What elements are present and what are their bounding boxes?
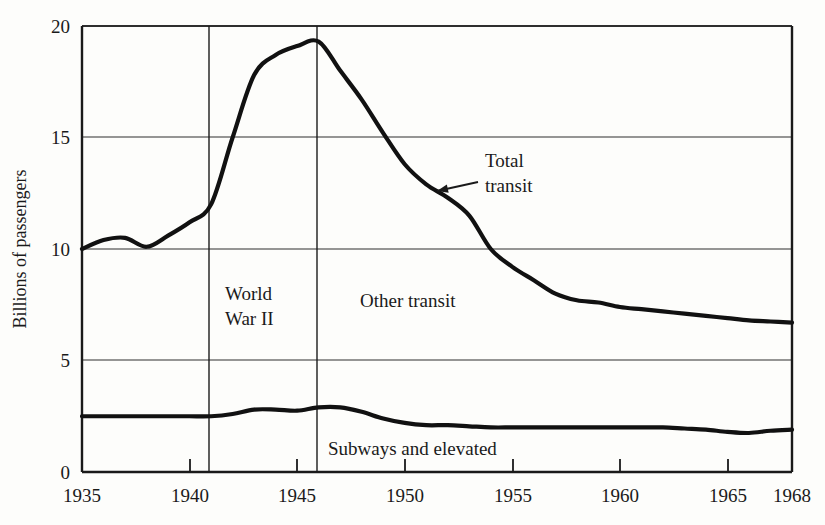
x-tick-label-1945: 1945	[278, 485, 316, 506]
x-tick-label-1968: 1968	[773, 485, 811, 506]
x-tick-label-1955: 1955	[494, 485, 532, 506]
y-tick-label-5: 5	[61, 350, 71, 371]
annotation-other-transit: Other transit	[360, 290, 456, 311]
y-axis-title: Billions of passengers	[10, 170, 30, 329]
annotation-world-war-line2: War II	[225, 308, 274, 329]
annotation-total-transit-line2: transit	[485, 175, 533, 196]
chart-canvas: 20 15 10 5 0 1935 1940 1945 1950 1955 19…	[0, 0, 825, 525]
y-tick-label-0: 0	[61, 462, 71, 483]
y-tick-label-15: 15	[51, 127, 70, 148]
y-tick-label-20: 20	[51, 16, 70, 37]
x-tick-label-1960: 1960	[601, 485, 639, 506]
x-tick-label-1940: 1940	[171, 485, 209, 506]
y-tick-label-10: 10	[51, 239, 70, 260]
x-tick-label-1935: 1935	[63, 485, 101, 506]
annotation-total-transit-line1: Total	[485, 150, 524, 171]
x-tick-label-1950: 1950	[386, 485, 424, 506]
chart-figure: 20 15 10 5 0 1935 1940 1945 1950 1955 19…	[0, 0, 825, 525]
annotation-subways-and-elevated: Subways and elevated	[328, 438, 497, 459]
annotation-world-war-line1: World	[225, 283, 273, 304]
x-tick-label-1965: 1965	[709, 485, 747, 506]
